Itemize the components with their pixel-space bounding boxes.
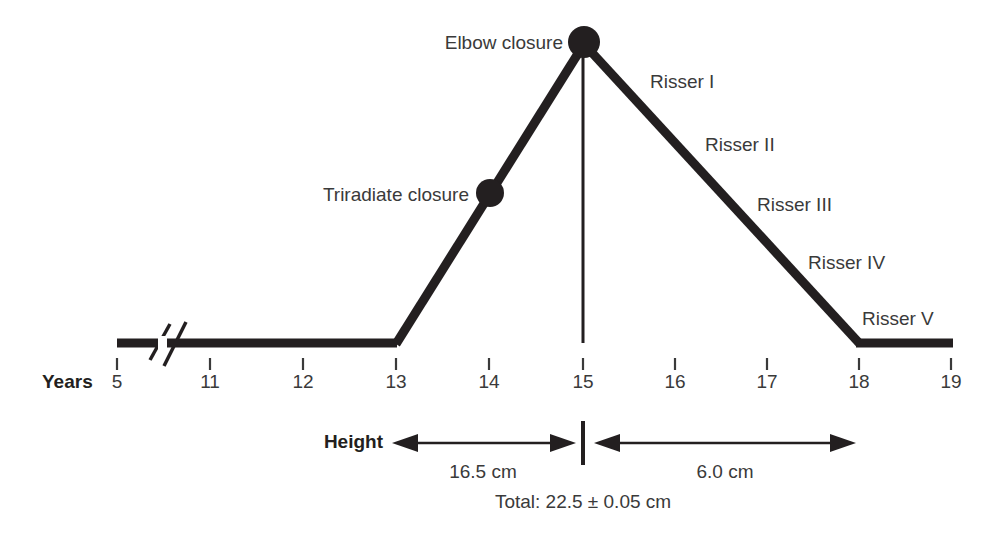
label-risser-5: Risser V [862, 309, 934, 328]
triradiate-closure-marker [476, 179, 504, 207]
measurement-right-value: 6.0 cm [696, 462, 753, 481]
tick-label-19: 19 [940, 372, 961, 391]
tick-label-17: 17 [756, 372, 777, 391]
measurement-total: Total: 22.5 ± 0.05 cm [495, 492, 671, 511]
tick-label-5: 5 [112, 372, 123, 391]
tick-label-12: 12 [292, 372, 313, 391]
measurement-left-value: 16.5 cm [449, 462, 517, 481]
label-triradiate-closure: Triradiate closure [323, 185, 469, 204]
left-measurement-arrow [392, 434, 576, 452]
label-risser-1: Risser I [650, 72, 714, 91]
tick-label-18: 18 [848, 372, 869, 391]
axis-title-years: Years [42, 372, 93, 391]
tick-label-15: 15 [572, 372, 593, 391]
label-elbow-closure: Elbow closure [445, 33, 563, 52]
measurement-title-height: Height [324, 432, 383, 451]
elbow-closure-marker [568, 26, 600, 58]
tick-label-13: 13 [385, 372, 406, 391]
label-risser-2: Risser II [705, 135, 775, 154]
growth-velocity-diagram: Years 5 11 12 13 14 15 16 17 18 19 Trira… [0, 0, 1005, 534]
label-risser-3: Risser III [757, 195, 832, 214]
label-risser-4: Risser IV [808, 253, 885, 272]
tick-label-11: 11 [200, 372, 220, 391]
tick-label-14: 14 [478, 372, 499, 391]
right-measurement-arrow [594, 434, 856, 452]
axis-tick-marks [117, 358, 951, 370]
axis-break-gap-mask [158, 336, 167, 351]
tick-label-16: 16 [664, 372, 685, 391]
